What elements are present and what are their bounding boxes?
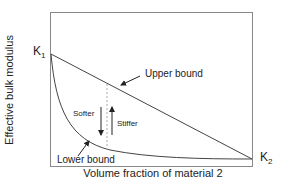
softer-label: Softer xyxy=(73,109,94,118)
k2-label: K2 xyxy=(260,150,272,166)
stiffer-label: Stiffer xyxy=(117,119,138,128)
upper-bound-label: Upper bound xyxy=(145,68,203,79)
y-axis-label: Effective bulk modulus xyxy=(3,35,15,145)
x-axis-label: Volume fraction of material 2 xyxy=(0,167,288,179)
lower-bound-label: Lower bound xyxy=(57,154,115,165)
diagram-canvas xyxy=(0,0,288,185)
upper-bound-pointer-arrow xyxy=(121,76,140,85)
k1-label: K1 xyxy=(33,44,45,60)
